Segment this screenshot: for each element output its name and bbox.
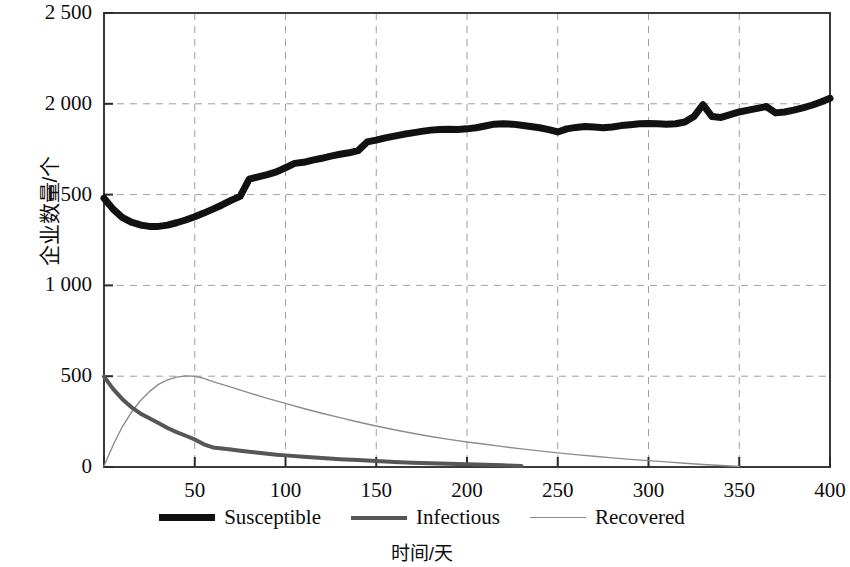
- x-axis-tick-label: 350: [699, 480, 779, 501]
- series-line-recovered: [104, 376, 739, 467]
- legend-label: Susceptible: [224, 505, 321, 530]
- legend-item: Susceptible: [159, 505, 321, 530]
- y-axis-tick-label: 1 000: [45, 274, 92, 295]
- x-axis-tick-label: 150: [336, 480, 416, 501]
- x-axis-title: 时间/天: [0, 538, 844, 565]
- series-line-infectious: [104, 377, 521, 467]
- legend-item: Infectious: [351, 505, 500, 530]
- legend-item: Recovered: [530, 505, 685, 530]
- x-axis-tick-label: 400: [790, 480, 850, 501]
- legend-swatch-icon: [530, 517, 586, 518]
- x-axis-tick-label: 50: [155, 480, 235, 501]
- y-axis-tick-label: 2 000: [45, 93, 92, 114]
- x-axis-tick-label: 200: [427, 480, 507, 501]
- y-axis-tick-label: 2 500: [45, 2, 92, 23]
- legend-label: Recovered: [595, 505, 685, 530]
- legend-label: Infectious: [416, 505, 500, 530]
- y-axis-tick-label: 0: [82, 456, 93, 477]
- x-axis-tick-label: 100: [246, 480, 326, 501]
- y-axis-tick-label: 500: [61, 365, 93, 386]
- chart-legend: SusceptibleInfectiousRecovered: [0, 505, 844, 530]
- legend-swatch-icon: [351, 516, 407, 520]
- y-axis-tick-label: 1 500: [45, 184, 92, 205]
- x-axis-tick-label: 250: [518, 480, 598, 501]
- x-axis-tick-label: 300: [609, 480, 689, 501]
- legend-swatch-icon: [159, 514, 215, 521]
